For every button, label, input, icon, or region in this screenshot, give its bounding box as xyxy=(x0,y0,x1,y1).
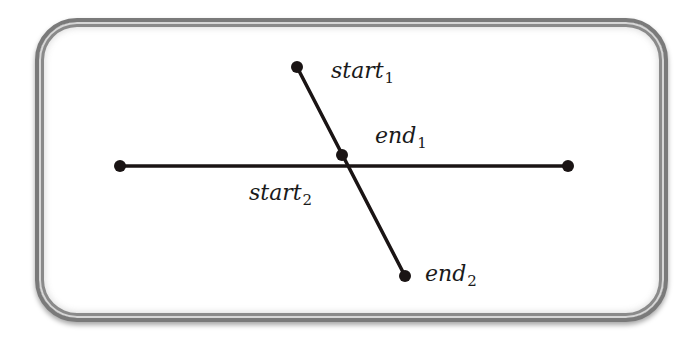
label-start2-sub: 2 xyxy=(303,191,313,209)
diagonal-segment xyxy=(297,67,405,276)
point-start1 xyxy=(291,61,303,73)
label-end2-sub: 2 xyxy=(467,272,477,290)
label-start1: start1 xyxy=(331,60,394,86)
diagram-canvas xyxy=(0,0,700,338)
point-end2 xyxy=(399,270,411,282)
label-start2: start2 xyxy=(249,182,312,208)
point-horizontal-left xyxy=(114,160,126,172)
label-end1-base: end xyxy=(375,123,416,148)
point-end1 xyxy=(336,149,348,161)
label-end2: end2 xyxy=(425,263,477,289)
label-end1-sub: 1 xyxy=(417,134,427,152)
label-end2-base: end xyxy=(425,261,466,286)
label-start1-base: start xyxy=(331,58,384,83)
point-horizontal-right xyxy=(562,160,574,172)
label-end1: end1 xyxy=(375,125,427,151)
label-start1-sub: 1 xyxy=(385,69,395,87)
label-start2-base: start xyxy=(249,180,302,205)
